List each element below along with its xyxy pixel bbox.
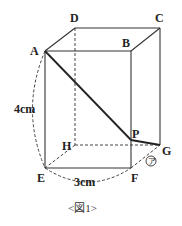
angle-mark-label: ア: [148, 157, 156, 166]
cuboid-diagram: A D C B P H G E F 4cm 3cm ア <図1>: [0, 0, 182, 226]
width-dimension: 3cm: [74, 175, 95, 189]
label-B: B: [122, 36, 130, 50]
label-P: P: [132, 127, 139, 141]
height-dimension: 4cm: [14, 102, 35, 116]
segment-AP: [45, 51, 131, 140]
label-A: A: [30, 44, 39, 58]
label-H: H: [62, 139, 72, 153]
label-F: F: [131, 171, 138, 185]
label-D: D: [70, 11, 79, 25]
figure-caption: <図1>: [68, 202, 97, 214]
edge-BC: [131, 28, 160, 51]
shortest-path: [45, 51, 160, 145]
label-E: E: [37, 171, 45, 185]
label-C: C: [155, 11, 164, 25]
label-G: G: [162, 144, 171, 158]
edge-AD: [45, 28, 75, 51]
